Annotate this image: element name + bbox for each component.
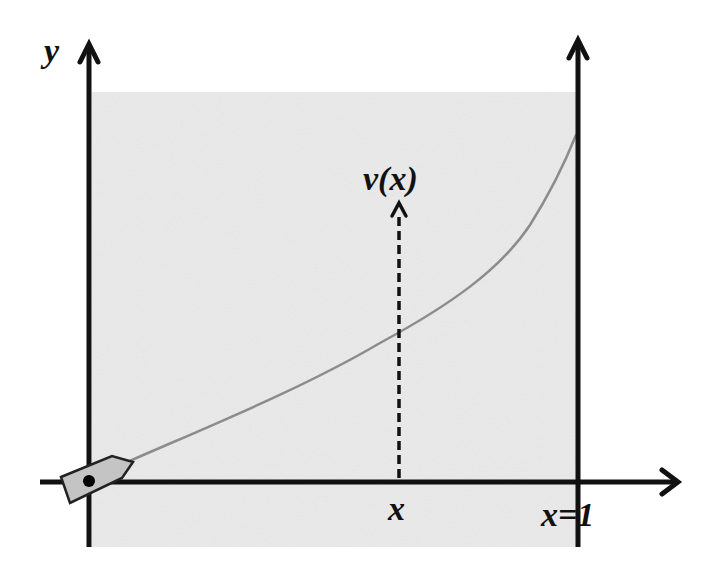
diagram-canvas (0, 0, 714, 569)
far-bank-label: x=1 (541, 498, 594, 532)
x-position-label: x (388, 492, 405, 526)
river-region (92, 92, 576, 547)
velocity-label: v(x) (363, 162, 418, 196)
river-crossing-diagram: y v(x) x x=1 (0, 0, 714, 569)
y-axis-label: y (44, 34, 59, 68)
boat-position-dot (83, 475, 95, 487)
